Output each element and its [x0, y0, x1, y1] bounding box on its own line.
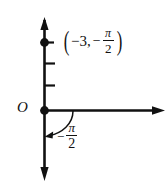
- point-coordinate-label: ( −3 , − π 2 ): [62, 27, 124, 55]
- point-label-angle-fraction: π 2: [103, 27, 114, 55]
- angle-label-fraction-denominator: 2: [67, 136, 76, 151]
- angle-label-fraction: π 2: [66, 121, 77, 151]
- point-label-fraction-denominator: 2: [104, 41, 113, 55]
- origin-point-dot: [40, 106, 49, 115]
- angle-label-negative-sign: −: [57, 130, 64, 143]
- point-label-radius-value: −3: [71, 34, 87, 49]
- angle-measure-label: − π 2: [57, 121, 78, 151]
- point-label-close-paren: ): [116, 30, 122, 52]
- origin-label: O: [17, 100, 28, 115]
- point-label-comma: ,: [87, 34, 91, 49]
- point-label-fraction-numerator: π: [104, 27, 112, 40]
- polar-coordinate-diagram: O ( −3 , − π 2 ) − π 2: [0, 0, 168, 186]
- point-label-negative-sign: −: [93, 34, 101, 48]
- angle-label-fraction-numerator: π: [68, 121, 77, 135]
- point-label-open-paren: (: [64, 30, 70, 52]
- plotted-point-dot: [40, 38, 49, 47]
